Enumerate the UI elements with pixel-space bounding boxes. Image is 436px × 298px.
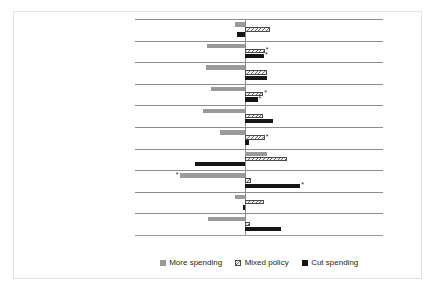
table-row: * (135, 127, 383, 149)
bar-more (235, 22, 245, 26)
bar-cut (245, 140, 249, 144)
table-row: ** (135, 170, 383, 192)
table-row (135, 149, 383, 171)
bar-cut (195, 162, 245, 166)
legend-item-mixed[interactable]: Mixed policy (235, 258, 289, 267)
legend-item-cut[interactable]: Cut spending (302, 258, 359, 267)
bar-mixed (245, 114, 263, 118)
bar-more (207, 44, 246, 48)
table-row (135, 19, 383, 41)
bar-cut (245, 119, 273, 123)
legend-swatch-icon (302, 260, 308, 266)
significance-marker: * (176, 173, 179, 177)
table-row: ** (135, 84, 383, 106)
bar-cut (245, 227, 281, 231)
significance-marker: * (264, 91, 267, 95)
bar-mixed (245, 222, 250, 226)
bar-mixed (245, 135, 265, 139)
bar-more (235, 195, 245, 199)
bar-more (203, 109, 246, 113)
bar-mixed (245, 27, 270, 31)
plot-area: ******* (135, 19, 383, 235)
significance-marker: * (266, 135, 269, 139)
table-row (135, 192, 383, 214)
legend-label: Cut spending (311, 258, 358, 267)
table-row (135, 213, 383, 235)
table-row: ** (135, 41, 383, 63)
bar-mixed (245, 178, 251, 182)
bar-cut (245, 76, 267, 80)
bar-more (208, 217, 245, 221)
bar-more (211, 87, 245, 91)
bar-cut (237, 32, 246, 36)
legend-swatch-icon (160, 260, 166, 266)
chart-legend: More spendingMixed policyCut spending (135, 258, 383, 267)
bar-more (206, 65, 245, 69)
legend-label: Mixed policy (245, 258, 289, 267)
bar-mixed (245, 157, 287, 161)
legend-label: More spending (169, 258, 222, 267)
legend-swatch-icon (235, 260, 241, 266)
significance-marker: * (259, 97, 262, 101)
bar-more (220, 130, 245, 134)
bar-cut (245, 97, 258, 101)
significance-marker: * (265, 53, 268, 57)
figure: ******* More spendingMixed policyCut spe… (0, 0, 436, 298)
x-axis-line (135, 235, 383, 236)
bar-more (245, 152, 267, 156)
significance-marker: * (301, 183, 304, 187)
bar-cut (245, 54, 264, 58)
legend-item-more[interactable]: More spending (160, 258, 222, 267)
table-row (135, 105, 383, 127)
bar-mixed (245, 70, 267, 74)
table-row (135, 62, 383, 84)
bar-cut (243, 205, 245, 209)
bar-mixed (245, 200, 264, 204)
bar-mixed (245, 49, 265, 53)
bar-more (180, 173, 245, 177)
bar-cut (245, 184, 300, 188)
